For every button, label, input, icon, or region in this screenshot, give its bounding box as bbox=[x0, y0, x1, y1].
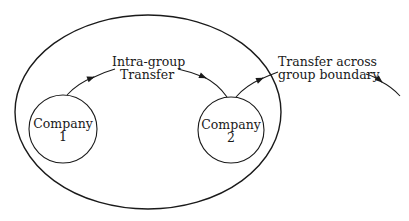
intra-group-arrow-end-tail bbox=[204, 77, 227, 97]
company-2-label-line2: 2 bbox=[201, 131, 261, 144]
company-1-label: Company 1 bbox=[33, 117, 93, 143]
intra-group-arrow-start bbox=[67, 77, 94, 95]
cross-boundary-arrow-end-tail bbox=[380, 81, 400, 96]
cross-boundary-label-line2: group boundary bbox=[278, 68, 370, 81]
intra-group-arrow-end bbox=[178, 69, 206, 78]
company-1-label-line2: 1 bbox=[33, 130, 93, 143]
group-boundary-ellipse bbox=[15, 15, 281, 209]
cross-boundary-arrow-start bbox=[236, 78, 263, 97]
intra-group-label-line2: Transfer bbox=[112, 68, 182, 81]
company-2-label: Company 2 bbox=[201, 118, 261, 144]
cross-boundary-label: Transfer across group boundary bbox=[278, 55, 370, 81]
diagram-canvas bbox=[0, 0, 409, 221]
intra-group-label: Intra-group Transfer bbox=[112, 55, 182, 81]
